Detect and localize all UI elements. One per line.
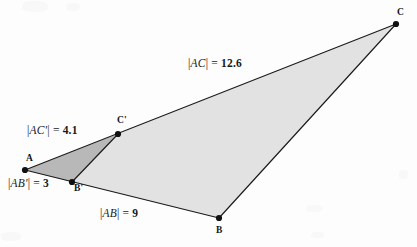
measure-label-ac: |AC| = 12.6 xyxy=(188,57,242,69)
equals-sign: = xyxy=(211,57,218,69)
measure-label-ab: |AB| = 9 xyxy=(100,207,138,219)
segment-name-ac: AC xyxy=(191,57,206,69)
point-label-cprime: C' xyxy=(117,115,127,125)
equals-sign: = xyxy=(53,124,60,136)
equals-sign: = xyxy=(123,207,130,219)
vertex-dot-c xyxy=(393,21,399,27)
measure-value-ac: 12.6 xyxy=(221,57,242,69)
point-label-bprime: B' xyxy=(74,183,83,193)
segment-name-abprime: AB' xyxy=(11,177,28,189)
bar-close: | xyxy=(206,57,209,69)
vertex-dot-b xyxy=(216,215,222,221)
segment-name-ab: AB xyxy=(103,207,117,219)
point-label-a: A xyxy=(26,153,33,163)
measure-value-acprime: 4.1 xyxy=(63,124,78,136)
measure-label-acprime: |AC'| = 4.1 xyxy=(27,124,78,136)
segment-name-acprime: AC' xyxy=(30,124,48,136)
diagram-canvas: |AC| = 12.6 |AC'| = 4.1 |AB'| = 3 |AB| =… xyxy=(0,0,417,247)
equals-sign: = xyxy=(33,177,40,189)
measure-label-abprime: |AB'| = 3 xyxy=(8,177,49,189)
vertex-dot-a xyxy=(22,167,28,173)
point-label-c: C xyxy=(397,7,404,17)
bar-close: | xyxy=(28,177,31,189)
vertex-dot-cprime xyxy=(115,131,121,137)
measure-value-abprime: 3 xyxy=(43,177,49,189)
bar-close: | xyxy=(47,124,50,136)
measure-value-ab: 9 xyxy=(132,207,138,219)
bar-close: | xyxy=(117,207,120,219)
point-label-b: B xyxy=(216,225,223,235)
